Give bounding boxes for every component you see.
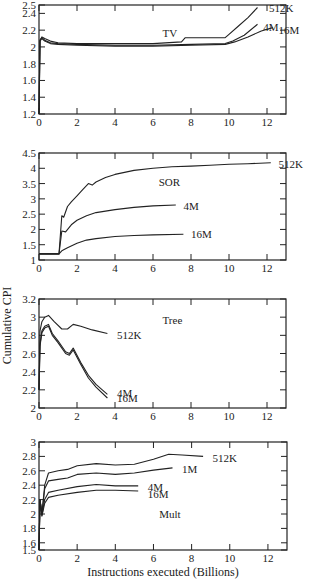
cpi-figure: 0246810121.21.41.61.822.22.42.5512K4M16M… <box>0 0 309 581</box>
y-tick-label: 1 <box>31 254 37 266</box>
plot-frame <box>39 5 286 114</box>
x-tick-label: 0 <box>36 410 42 422</box>
x-tick-label: 12 <box>262 262 273 274</box>
x-tick-label: 2 <box>74 116 80 128</box>
x-tick-label: 10 <box>224 410 236 422</box>
series-annotation: 512K <box>269 2 294 14</box>
y-tick-label: 3 <box>31 311 37 323</box>
y-tick-label: 2.5 <box>22 208 36 220</box>
y-tick-label: 3 <box>31 193 37 205</box>
x-tick-label: 12 <box>262 410 273 422</box>
series-annotation: 16M <box>191 228 212 240</box>
x-tick-label: 8 <box>189 552 195 564</box>
x-tick-label: 6 <box>151 552 157 564</box>
y-tick-label: 2.6 <box>22 465 36 477</box>
panel-mult: 0246810121.51.61.822.22.42.62.83512K1M4M… <box>22 436 287 564</box>
series-line-512k <box>39 454 203 550</box>
y-tick-label: 4.5 <box>22 147 36 159</box>
series-annotation: 16M <box>148 488 169 500</box>
x-tick-label: 4 <box>112 262 118 274</box>
series-annotation: 1M <box>182 463 198 475</box>
panel-tv: 0246810121.21.41.61.822.22.42.5512K4M16M… <box>22 0 299 128</box>
x-tick-label: 8 <box>188 262 194 274</box>
x-tick-label: 0 <box>36 116 42 128</box>
x-tick-label: 4 <box>112 116 118 128</box>
y-tick-label: 1.4 <box>22 91 36 103</box>
series-line-16m <box>39 326 107 398</box>
series-annotation: TV <box>163 27 178 39</box>
y-tick-label: 2.4 <box>22 366 36 378</box>
x-tick-label: 8 <box>188 410 194 422</box>
x-tick-label: 4 <box>112 410 118 422</box>
series-annotation: 512K <box>213 452 238 464</box>
y-tick-label: 1.8 <box>22 522 36 534</box>
series-annotation: SOR <box>159 176 181 188</box>
x-tick-label: 10 <box>224 262 236 274</box>
series-annotation: 512K <box>278 158 303 170</box>
series-line-4m <box>39 324 107 394</box>
y-tick-label: 2.2 <box>22 24 36 36</box>
y-tick-label: 2 <box>31 41 37 53</box>
series-annotation: Mult <box>159 508 180 520</box>
y-tick-label: 1.6 <box>22 74 36 86</box>
x-tick-label: 2 <box>74 262 80 274</box>
y-tick-label: 2.2 <box>22 494 36 506</box>
y-tick-label: 1.8 <box>22 58 36 70</box>
x-tick-label: 6 <box>150 410 156 422</box>
series-line-4m <box>39 205 176 254</box>
y-tick-label: 4 <box>31 162 37 174</box>
x-axis-label: Instructions executed (Billions) <box>39 565 287 580</box>
x-tick-label: 10 <box>224 116 236 128</box>
x-tick-label: 12 <box>262 116 273 128</box>
x-tick-label: 0 <box>36 262 42 274</box>
x-tick-label: 6 <box>150 116 156 128</box>
y-tick-label: 2.5 <box>22 0 36 11</box>
x-tick-label: 6 <box>150 262 156 274</box>
y-tick-label: 2 <box>31 402 37 414</box>
series-annotation: 16M <box>278 24 299 36</box>
y-tick-label: 1.6 <box>22 537 36 549</box>
series-line-4m <box>39 485 138 551</box>
y-tick-label: 2.6 <box>22 348 36 360</box>
series-line-16m <box>39 490 138 550</box>
panel-sor: 02468101211.522.533.544.5512K4M16MSOR <box>22 147 303 274</box>
x-tick-label: 8 <box>188 116 194 128</box>
series-annotation: 4M <box>263 21 279 33</box>
panel-tree: 02468101222.22.42.62.833.2512K4M16MTree <box>22 293 286 422</box>
x-tick-label: 4 <box>113 552 119 564</box>
y-tick-label: 3 <box>31 436 37 448</box>
series-annotation: Tree <box>163 314 183 326</box>
x-tick-label: 12 <box>262 552 273 564</box>
y-tick-label: 2.2 <box>22 384 36 396</box>
series-annotation: 512K <box>117 329 141 341</box>
y-tick-label: 3.2 <box>22 293 36 305</box>
y-tick-label: 1.5 <box>22 239 36 251</box>
y-tick-label: 2.4 <box>22 479 36 491</box>
y-tick-label: 2 <box>31 508 37 520</box>
x-tick-label: 2 <box>74 410 80 422</box>
x-tick-label: 2 <box>74 552 80 564</box>
series-line-512k <box>39 8 258 115</box>
x-tick-label: 0 <box>36 552 42 564</box>
series-annotation: 4M <box>183 200 199 212</box>
y-tick-label: 1.2 <box>22 108 36 120</box>
series-line-512k <box>39 163 271 254</box>
series-annotation: 16M <box>117 392 138 404</box>
y-tick-label: 2.8 <box>22 450 36 462</box>
y-tick-label: 2 <box>31 223 37 235</box>
y-tick-label: 2.8 <box>22 329 36 341</box>
series-line-16m <box>39 28 273 114</box>
y-tick-label: 3.5 <box>22 178 36 190</box>
y-axis-label: Cumulative CPI <box>0 281 15 371</box>
x-tick-label: 10 <box>224 552 236 564</box>
